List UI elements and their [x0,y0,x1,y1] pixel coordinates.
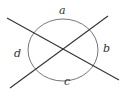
label-c: c [64,75,70,88]
label-a: a [59,4,66,17]
intersecting-lines-diagram: a b c d [0,0,121,91]
angle-circle [28,19,98,81]
label-d: d [14,47,21,60]
label-b: b [103,42,110,55]
line-ascending [10,16,108,88]
